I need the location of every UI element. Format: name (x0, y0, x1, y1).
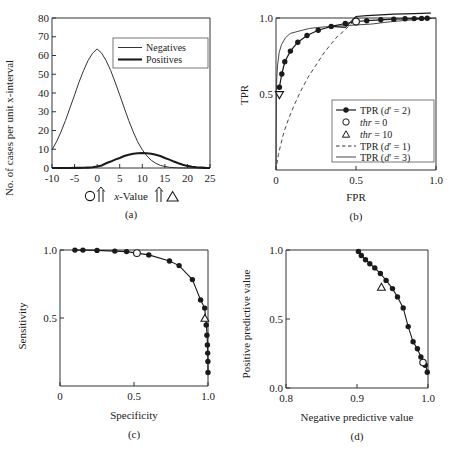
svg-text:20: 20 (182, 172, 194, 184)
panel-b-yticklabels: 0.5 1.0 (259, 12, 273, 100)
svg-text:5: 5 (117, 172, 123, 184)
panel-a-curve-positives (52, 153, 210, 168)
svg-text:70: 70 (38, 30, 50, 42)
panel-b-marker-thr0 (353, 18, 360, 25)
panel-c-xticks (60, 382, 208, 386)
panel-d-xticklabels: 0.8 0.9 1.0 (279, 392, 435, 404)
panel-d-xlabel: Negative predictive value (300, 411, 413, 423)
panel-d-id: (d) (351, 430, 364, 443)
panel-b-legend-item-0: TPR (d′ = 2) (360, 105, 410, 117)
panel-a: No. of cases per unit x-interval (0, 0, 228, 236)
svg-text:1.0: 1.0 (259, 12, 273, 24)
svg-text:25: 25 (205, 172, 217, 184)
panel-b-datapoints (277, 16, 430, 90)
panel-c-datapoints (72, 247, 211, 375)
svg-text:0: 0 (57, 390, 63, 402)
svg-text:1.0: 1.0 (429, 174, 443, 186)
panel-d-marker-thr0 (420, 359, 426, 365)
svg-text:10: 10 (38, 143, 50, 155)
svg-text:1.0: 1.0 (201, 390, 215, 402)
svg-text:15: 15 (159, 172, 171, 184)
up-arrow-right-icon (155, 187, 163, 202)
panel-c-xlabel: Specificity (110, 409, 158, 421)
panel-b-legend-item-4: TPR (d′ = 3) (360, 152, 410, 164)
panel-a-xticklabels: -10 -5 0 5 10 15 20 25 (45, 172, 216, 184)
panel-b-xticks (276, 166, 436, 170)
panel-d-yticklabels: 0.0 0.5 1.0 (269, 244, 283, 394)
svg-text:0.9: 0.9 (350, 392, 364, 404)
svg-text:0.5: 0.5 (349, 174, 363, 186)
panel-b: TPR 0.5 1.0 (228, 0, 457, 236)
panel-d-ylabel: Positive predictive value (240, 270, 252, 379)
svg-text:-5: -5 (70, 172, 80, 184)
svg-text:0: 0 (273, 174, 279, 186)
panel-b-ylabel: TPR (238, 84, 250, 105)
panel-a-xlabel: x-Value (113, 190, 148, 202)
svg-text:10: 10 (137, 172, 149, 184)
panel-c-xticklabels: 0 0.5 1.0 (57, 390, 215, 402)
panel-b-legend-item-1: thr = 0 (360, 117, 387, 128)
panel-c-ylabel: Sensitivity (16, 302, 28, 350)
panel-d-xticks (286, 384, 428, 388)
panel-d-curve (358, 251, 427, 372)
panel-d-marker-thr10 (378, 283, 386, 290)
svg-text:1.0: 1.0 (43, 244, 57, 256)
panel-d: Positive predictive value 0.0 0.5 1.0 (228, 236, 457, 473)
svg-text:20: 20 (38, 124, 50, 136)
figure-roc-panels: No. of cases per unit x-interval (0, 0, 457, 473)
svg-text:0.5: 0.5 (127, 390, 141, 402)
panel-c-marker-thr0 (134, 250, 141, 257)
panel-a-id: (a) (125, 208, 138, 221)
thr0-circle-icon (85, 191, 94, 200)
svg-text:0.5: 0.5 (259, 88, 273, 100)
svg-text:1.0: 1.0 (421, 392, 435, 404)
panel-c-axes (60, 250, 208, 386)
panel-b-xticklabels: 0 0.5 1.0 (273, 174, 443, 186)
svg-text:1.0: 1.0 (269, 244, 283, 256)
panel-d-yticks (286, 250, 290, 388)
panel-b-legend: TPR (d′ = 2) thr = 0 thr = 10 TPR (d′ = … (332, 100, 434, 164)
panel-a-legend-positives: Positives (146, 54, 182, 65)
panel-a-ylabel: No. of cases per unit x-interval (3, 60, 15, 196)
panel-d-datapoints (356, 249, 430, 375)
panel-a-yticklabels: 0 10 20 30 40 50 60 70 80 (38, 12, 50, 174)
thr10-triangle-icon (167, 192, 178, 202)
panel-a-legend-negatives: Negatives (146, 42, 186, 53)
panel-b-legend-item-2: thr = 10 (360, 129, 392, 140)
svg-text:0.8: 0.8 (279, 392, 293, 404)
panel-c-curve (75, 250, 208, 370)
up-arrow-left-icon (97, 187, 105, 202)
svg-text:-10: -10 (45, 172, 60, 184)
panel-c-yticks (60, 250, 64, 318)
svg-text:50: 50 (38, 68, 50, 80)
svg-text:30: 30 (38, 105, 50, 117)
svg-text:60: 60 (38, 49, 50, 61)
panel-b-xlabel: FPR (346, 191, 366, 203)
panel-c-id: (c) (128, 428, 141, 441)
panel-b-id: (b) (350, 210, 363, 223)
svg-text:40: 40 (38, 87, 50, 99)
svg-text:0.5: 0.5 (43, 312, 57, 324)
panel-c-yticklabels: 0.5 1.0 (43, 244, 57, 324)
svg-text:0: 0 (94, 172, 100, 184)
panel-a-xlabel-row: x-Value (85, 187, 178, 202)
svg-text:0.5: 0.5 (269, 313, 283, 325)
panel-a-legend: Negatives Positives (113, 38, 208, 68)
svg-text:80: 80 (38, 12, 50, 24)
panel-c: Sensitivity 0.5 1.0 0 (0, 236, 228, 473)
